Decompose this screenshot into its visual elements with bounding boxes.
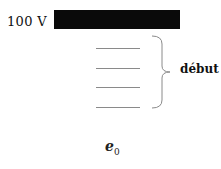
epsilon-symbol: e	[105, 138, 114, 154]
charged-plate	[54, 10, 180, 29]
field-line-1	[96, 48, 140, 49]
debut-label: début	[180, 62, 219, 76]
field-line-4	[96, 107, 140, 108]
curly-brace-icon	[150, 34, 180, 110]
voltage-label: 100 V	[7, 14, 47, 29]
field-line-2	[96, 68, 140, 69]
epsilon-zero-label: e0	[105, 138, 120, 157]
epsilon-subscript: 0	[114, 147, 120, 157]
field-line-3	[96, 87, 140, 88]
